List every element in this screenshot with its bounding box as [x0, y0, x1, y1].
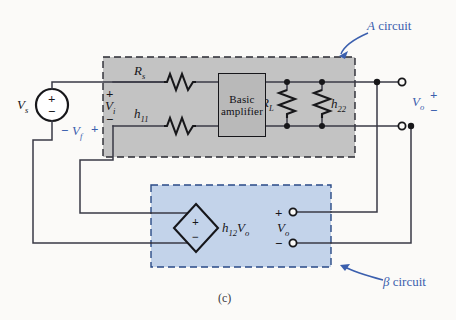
leader-beta-circuit: [343, 266, 383, 280]
a-circuit-annotation: A circuit: [367, 18, 411, 34]
basic-amplifier-block: Basic amplifier: [218, 73, 266, 137]
junction-dot-rl-top: [284, 79, 290, 85]
figure-caption: (c): [218, 291, 231, 306]
dependent-source-plus-sign: +: [192, 216, 199, 228]
a-circuit-annotation-symbol: A: [367, 18, 375, 33]
amplifier-label-line2: amplifier: [221, 105, 263, 117]
amplifier-label-line1: Basic: [229, 93, 254, 105]
beta-circuit-annotation: β circuit: [383, 274, 426, 290]
beta-circuit-annotation-text: circuit: [389, 274, 425, 289]
source-label: Vs: [17, 98, 28, 114]
resistor-h22-label: h22: [331, 97, 346, 113]
junction-dot-output-top-tap: [374, 79, 380, 85]
figure-circuit-diagram: Vs + − − Vf + + Vi − Rs h11 RL h22 Basic…: [0, 0, 456, 320]
beta-port-minus-sign: −: [275, 237, 282, 250]
dependent-source-minus-sign: −: [192, 231, 199, 243]
circuit-schematic-canvas: [0, 0, 456, 320]
a-circuit-annotation-text: circuit: [375, 18, 411, 33]
output-terminal-negative: [398, 122, 405, 129]
junction-dot-h22-top: [319, 79, 325, 85]
beta-port-terminal-positive: [289, 208, 296, 215]
junction-dot-h22-bottom: [319, 123, 325, 129]
vf-minus-sign: −: [61, 124, 68, 137]
resistor-h11-label: h11: [134, 107, 148, 123]
junction-dot-rl-bottom: [284, 123, 290, 129]
arrowhead-beta-circuit: [340, 264, 350, 271]
source-minus-sign: −: [48, 105, 55, 118]
output-plus-sign: +: [430, 88, 437, 101]
vf-plus-sign: +: [91, 122, 98, 135]
output-minus-sign: −: [430, 104, 437, 117]
output-voltage-label: Vo: [412, 95, 424, 111]
beta-port-plus-sign: +: [275, 206, 282, 219]
vi-minus-sign: −: [106, 113, 113, 126]
leader-a-circuit: [341, 33, 368, 54]
junction-dot-output-bottom-tap: [408, 123, 414, 129]
resistor-rs-label: Rs: [134, 64, 145, 80]
feedback-voltage-label: Vf: [72, 124, 82, 140]
dependent-source-label: h12Vo: [222, 221, 249, 237]
beta-port-terminal-negative: [289, 239, 296, 246]
beta-port-voltage-label: Vo: [277, 221, 289, 237]
output-terminal-positive: [398, 78, 405, 85]
